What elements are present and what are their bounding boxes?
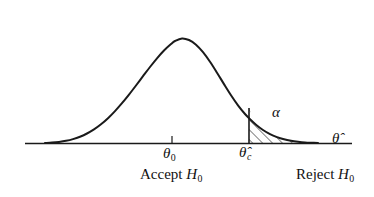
accept-h-symbol: H (186, 166, 197, 182)
critical-value-label: θ̂c (239, 145, 251, 162)
theta-null-label: θ0 (163, 146, 176, 163)
alpha-label: α (272, 105, 280, 120)
reject-word: Reject (296, 166, 338, 182)
theta-null-subscript: 0 (170, 152, 175, 163)
accept-word: Accept (140, 166, 186, 182)
axis-label-theta-hat: θ̂ (332, 131, 339, 146)
hypothesis-test-figure: θ0 θ̂c θ̂ α Accept H0 Reject H0 (0, 0, 374, 197)
accept-region-label: Accept H0 (140, 167, 202, 184)
reject-region-label: Reject H0 (296, 167, 354, 184)
reject-h-symbol: H (338, 166, 349, 182)
normal-density-curve-main (45, 38, 318, 143)
reject-subscript: 0 (349, 173, 354, 184)
accept-subscript: 0 (197, 173, 202, 184)
alpha-rejection-region (249, 108, 318, 143)
critical-subscript: c (246, 151, 251, 162)
